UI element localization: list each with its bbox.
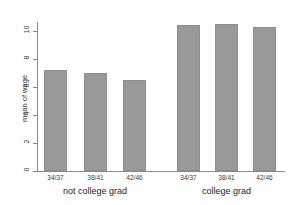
- x-axis-group-label: college grad: [167, 186, 287, 196]
- x-axis-tick-label: 42/46: [247, 174, 282, 181]
- plot-area: [38, 22, 284, 172]
- y-axis-tick-label: 2: [23, 134, 30, 150]
- x-axis-tick-label: 38/41: [209, 174, 244, 181]
- y-axis-tick: [33, 59, 37, 60]
- y-axis-tick-label: 8: [23, 50, 30, 66]
- y-axis-line: [37, 22, 38, 172]
- bar: [177, 25, 200, 171]
- y-axis-tick-label: 6: [23, 78, 30, 94]
- x-axis-tick-label: 34/37: [38, 174, 73, 181]
- x-axis-line: [37, 171, 285, 172]
- x-axis-tick-label: 42/46: [117, 174, 152, 181]
- y-axis-tick: [33, 87, 37, 88]
- bar: [215, 24, 238, 171]
- bar: [123, 80, 146, 171]
- y-axis-tick-label: 10: [23, 22, 30, 38]
- y-axis-tick: [33, 171, 37, 172]
- x-axis-group-label: not college grad: [35, 186, 155, 196]
- y-axis-tick: [33, 31, 37, 32]
- y-axis-tick-label: 4: [23, 106, 30, 122]
- bar: [44, 70, 67, 171]
- y-axis-title: mean of wage: [20, 64, 29, 134]
- bar: [84, 73, 107, 171]
- x-axis-tick-label: 34/37: [171, 174, 206, 181]
- clipped-header-text: [0, 0, 289, 7]
- y-axis-tick: [33, 115, 37, 116]
- y-axis-tick: [33, 143, 37, 144]
- chart-figure: mean of wage 0246810 34/3738/4142/4634/3…: [0, 0, 289, 205]
- y-axis-tick-label: 0: [23, 162, 30, 178]
- x-axis-tick-label: 38/41: [78, 174, 113, 181]
- y-axis-title-wrap: mean of wage: [17, 60, 29, 140]
- bar: [253, 27, 276, 171]
